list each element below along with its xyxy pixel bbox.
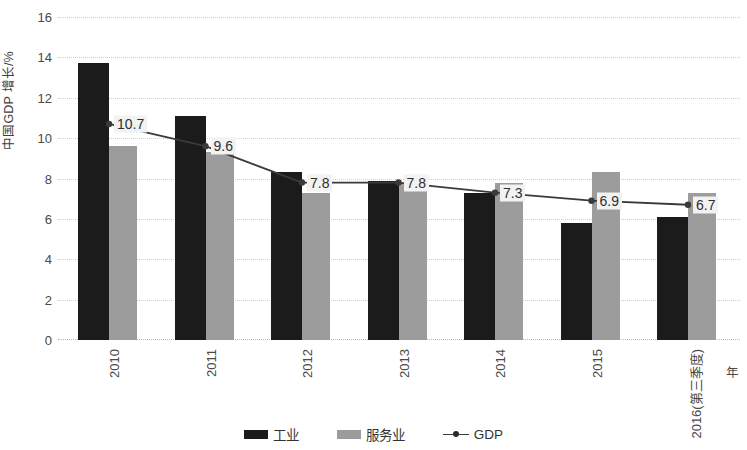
legend-label: GDP bbox=[474, 427, 503, 442]
y-axis-tick-label: 0 bbox=[12, 333, 52, 348]
gdp-point-label: 7.3 bbox=[500, 184, 525, 201]
y-axis-tick-label: 6 bbox=[12, 211, 52, 226]
legend-label: 工业 bbox=[273, 424, 299, 444]
y-axis-tick-label: 8 bbox=[12, 171, 52, 186]
x-axis-category-label: 2012 bbox=[300, 349, 315, 378]
plot-area: 10.79.67.87.87.36.96.7 bbox=[58, 17, 740, 340]
legend-item[interactable]: 工业 bbox=[244, 424, 299, 444]
gdp-point-label: 9.6 bbox=[211, 138, 236, 155]
x-axis-category-label: 2010 bbox=[107, 349, 122, 378]
gdp-point-label: 6.7 bbox=[693, 196, 718, 213]
y-axis-tick-label: 4 bbox=[12, 252, 52, 267]
legend-swatch-services-icon bbox=[337, 430, 361, 439]
gdp-point-label: 7.8 bbox=[307, 174, 332, 191]
legend-swatch-industry-icon bbox=[244, 430, 268, 439]
x-axis-title: 年 bbox=[726, 362, 739, 381]
legend-line-marker-icon bbox=[443, 430, 469, 439]
y-axis-ticks: 1614121086420 bbox=[8, 17, 52, 340]
y-axis-tick-label: 10 bbox=[12, 131, 52, 146]
legend-item[interactable]: GDP bbox=[443, 427, 503, 442]
legend-label: 服务业 bbox=[366, 424, 405, 444]
x-axis-category-label: 2015 bbox=[590, 349, 605, 378]
chart-legend: 工业服务业GDP bbox=[0, 424, 747, 444]
x-axis-category-label: 2014 bbox=[493, 349, 508, 378]
x-axis-category-label: 2013 bbox=[397, 349, 412, 378]
y-axis-tick-label: 14 bbox=[12, 50, 52, 65]
y-axis-tick-label: 2 bbox=[12, 292, 52, 307]
legend-item[interactable]: 服务业 bbox=[337, 424, 405, 444]
gdp-growth-chart: 中国GDP 增长/% 1614121086420 10.79.67.87.87.… bbox=[0, 0, 747, 450]
gdp-point-label: 6.9 bbox=[597, 192, 622, 209]
gdp-line-series bbox=[58, 17, 740, 340]
y-axis-tick-label: 12 bbox=[12, 90, 52, 105]
x-axis-category-label: 2011 bbox=[204, 349, 219, 377]
y-axis-tick-label: 16 bbox=[12, 10, 52, 25]
gdp-point-label: 7.8 bbox=[404, 174, 429, 191]
gdp-point-label: 10.7 bbox=[114, 115, 147, 132]
